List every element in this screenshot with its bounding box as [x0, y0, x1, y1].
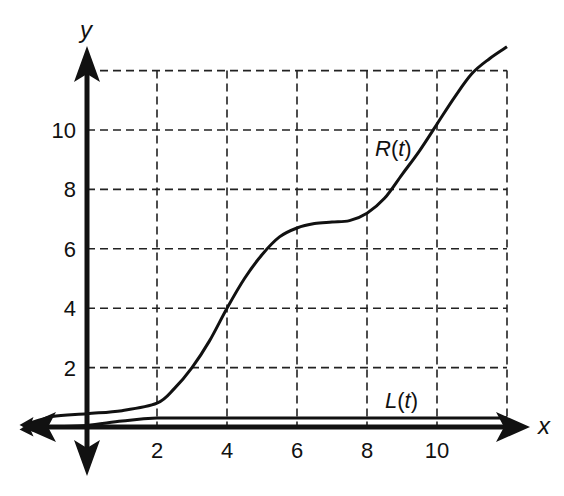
y-tick-label: 4 — [64, 296, 76, 321]
x-tick-label: 4 — [221, 438, 233, 463]
l-curve-label: L(t) — [385, 388, 418, 413]
r-curve — [28, 47, 508, 424]
x-tick-label: 8 — [361, 438, 373, 463]
y-tick-label: 6 — [64, 237, 76, 262]
y-tick-label: 2 — [64, 356, 76, 381]
grid — [87, 71, 507, 427]
curves — [20, 47, 508, 437]
y-tick-label: 8 — [64, 177, 76, 202]
x-axis-label: x — [537, 412, 551, 439]
r-curve-label: R(t) — [375, 136, 412, 161]
y-tick-label: 10 — [52, 118, 76, 143]
x-tick-label: 2 — [151, 438, 163, 463]
chart: 246810246810 x y R(t) L(t) — [0, 0, 564, 496]
x-tick-label: 10 — [425, 438, 449, 463]
x-tick-label: 6 — [291, 438, 303, 463]
y-axis-label: y — [78, 16, 94, 43]
